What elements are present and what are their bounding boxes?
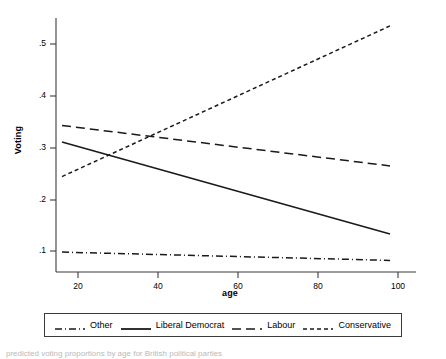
y-tick-label-1: .4 <box>24 90 46 100</box>
y-tick-label-2: .3 <box>24 142 46 152</box>
legend-label-other: Other <box>90 320 113 330</box>
figure-caption-cropped: predicted voting proportions by age for … <box>6 350 436 359</box>
x-tick-label-1: 40 <box>143 281 173 291</box>
legend-item-labour[interactable]: Labour <box>232 320 295 330</box>
legend-item-liberal-democrat[interactable]: Liberal Democrat <box>121 320 225 330</box>
series-line-labour <box>62 126 390 166</box>
y-tick-marks <box>50 44 56 251</box>
series-line-liberal-democrat <box>62 142 390 234</box>
figure-caption-text: predicted voting proportions by age for … <box>6 350 436 358</box>
x-axis-title: age <box>180 288 280 298</box>
legend-label-conservative: Conservative <box>338 320 391 330</box>
x-tick-label-4: 100 <box>383 281 413 291</box>
x-tick-label-3: 80 <box>303 281 333 291</box>
chart-legend: Other Liberal Democrat Labour <box>44 313 402 337</box>
series-line-other <box>62 252 390 260</box>
x-tick-marks <box>78 272 398 278</box>
legend-item-other[interactable]: Other <box>55 320 113 330</box>
line-chart-svg <box>0 0 446 300</box>
y-tick-label-4: .1 <box>24 245 46 255</box>
plot-area: .5 .4 .3 .2 .1 20 40 60 80 100 Voting ag… <box>0 0 446 300</box>
series-line-conservative <box>62 26 390 177</box>
legend-item-conservative[interactable]: Conservative <box>303 320 391 330</box>
y-tick-label-0: .5 <box>24 38 46 48</box>
legend-label-labour: Labour <box>267 320 295 330</box>
legend-swatch-labour-icon <box>232 320 262 330</box>
y-tick-label-3: .2 <box>24 194 46 204</box>
chart-figure: .5 .4 .3 .2 .1 20 40 60 80 100 Voting ag… <box>0 0 446 359</box>
y-axis-title: Voting <box>13 113 23 167</box>
x-tick-label-0: 20 <box>63 281 93 291</box>
legend-swatch-conservative-icon <box>303 320 333 330</box>
legend-swatch-liberal-democrat-icon <box>121 320 151 330</box>
legend-label-liberal-democrat: Liberal Democrat <box>156 320 225 330</box>
legend-swatch-other-icon <box>55 320 85 330</box>
